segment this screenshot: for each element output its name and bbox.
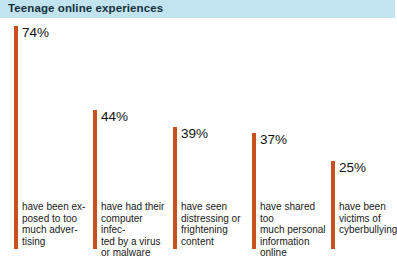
- bar-group-5: 25% have been victims of cyberbullying: [331, 18, 395, 257]
- caption-line: ted by a virus: [101, 236, 169, 248]
- bar-virus-malware: [93, 110, 97, 249]
- caption-line: posed to too: [22, 213, 85, 225]
- bar-value-personal-information: 37%: [260, 133, 287, 147]
- bar-caption-advertising: have been ex- posed to too much adver- t…: [22, 201, 85, 247]
- caption-line: much personal: [260, 224, 328, 236]
- bar-distressing-content: [173, 127, 177, 249]
- bar-cyberbullying: [331, 161, 335, 249]
- chart-title: Teenage online experiences: [8, 2, 163, 14]
- bar-caption-personal-information: have shared too much personal informatio…: [260, 201, 328, 257]
- caption-line: victims of: [339, 213, 397, 225]
- caption-line: have been: [339, 201, 397, 213]
- caption-line: have been ex-: [22, 201, 85, 213]
- bar-value-virus-malware: 44%: [101, 110, 128, 124]
- caption-line: distressing or: [181, 213, 240, 225]
- caption-line: much adver-: [22, 224, 85, 236]
- caption-line: have shared too: [260, 201, 328, 224]
- caption-line: frightening: [181, 224, 240, 236]
- bar-value-advertising: 74%: [22, 26, 49, 40]
- bar-value-distressing-content: 39%: [181, 127, 208, 141]
- bar-advertising: [14, 26, 18, 249]
- bar-group-1: 74% have been ex- posed to too much adve…: [14, 18, 90, 257]
- caption-line: online: [260, 247, 328, 257]
- caption-line: have seen: [181, 201, 240, 213]
- bar-personal-information: [252, 133, 256, 249]
- bar-value-cyberbullying: 25%: [339, 161, 366, 175]
- caption-line: have had their: [101, 201, 169, 213]
- caption-line: information: [260, 236, 328, 248]
- caption-line: computer infec-: [101, 213, 169, 236]
- bar-caption-virus-malware: have had their computer infec- ted by a …: [101, 201, 169, 257]
- bar-caption-distressing-content: have seen distressing or frightening con…: [181, 201, 240, 247]
- plot-area: 74% have been ex- posed to too much adve…: [0, 18, 395, 257]
- bar-caption-cyberbullying: have been victims of cyberbullying: [339, 201, 397, 236]
- caption-line: or malware: [101, 247, 169, 257]
- caption-line: tising: [22, 236, 85, 248]
- bar-group-2: 44% have had their computer infec- ted b…: [93, 18, 169, 257]
- caption-line: cyberbullying: [339, 224, 397, 236]
- caption-line: content: [181, 236, 240, 248]
- bar-group-3: 39% have seen distressing or frightening…: [173, 18, 249, 257]
- bar-group-4: 37% have shared too much personal inform…: [252, 18, 328, 257]
